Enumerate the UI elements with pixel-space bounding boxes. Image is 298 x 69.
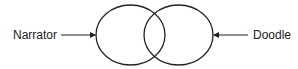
- narrator-label: Narrator: [13, 28, 57, 42]
- right-circle: [144, 5, 213, 65]
- doodle-label: Doodle: [253, 28, 291, 42]
